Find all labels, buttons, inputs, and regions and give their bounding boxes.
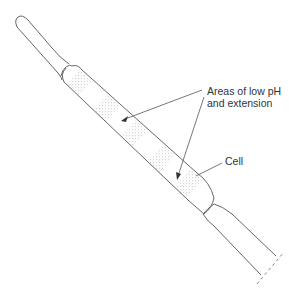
tip-cell-outline xyxy=(16,16,69,80)
cell-wall-lower xyxy=(203,204,214,214)
continuation-dashes xyxy=(257,252,284,284)
leader-cell xyxy=(196,163,222,176)
label-areas-line2: and extension xyxy=(207,97,281,109)
label-areas-line1: Areas of low pH xyxy=(207,85,281,97)
root-hair-diagram xyxy=(0,0,304,297)
leader-areas-1 xyxy=(125,90,202,119)
label-cell: Cell xyxy=(225,155,243,167)
leader-areas-2 xyxy=(178,97,204,176)
arrowhead-2 xyxy=(176,172,181,180)
lower-cell-outline xyxy=(203,204,276,275)
low-ph-bands xyxy=(60,70,202,206)
arrowhead-1 xyxy=(121,116,128,122)
label-areas-low-ph: Areas of low pH and extension xyxy=(207,85,281,109)
